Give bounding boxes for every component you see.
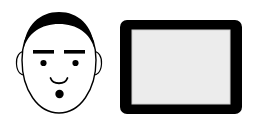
tablet-screen: [132, 30, 230, 104]
chin-dot: [55, 90, 63, 98]
right-eye: [72, 60, 78, 66]
right-eyebrow: [64, 50, 85, 54]
illustration-canvas: Line-art illustration: stylized face and…: [0, 0, 257, 132]
tablet-device-group: [120, 20, 242, 114]
left-eyebrow: [33, 50, 54, 54]
left-eye: [40, 60, 46, 66]
illustration-svg: [0, 0, 257, 132]
